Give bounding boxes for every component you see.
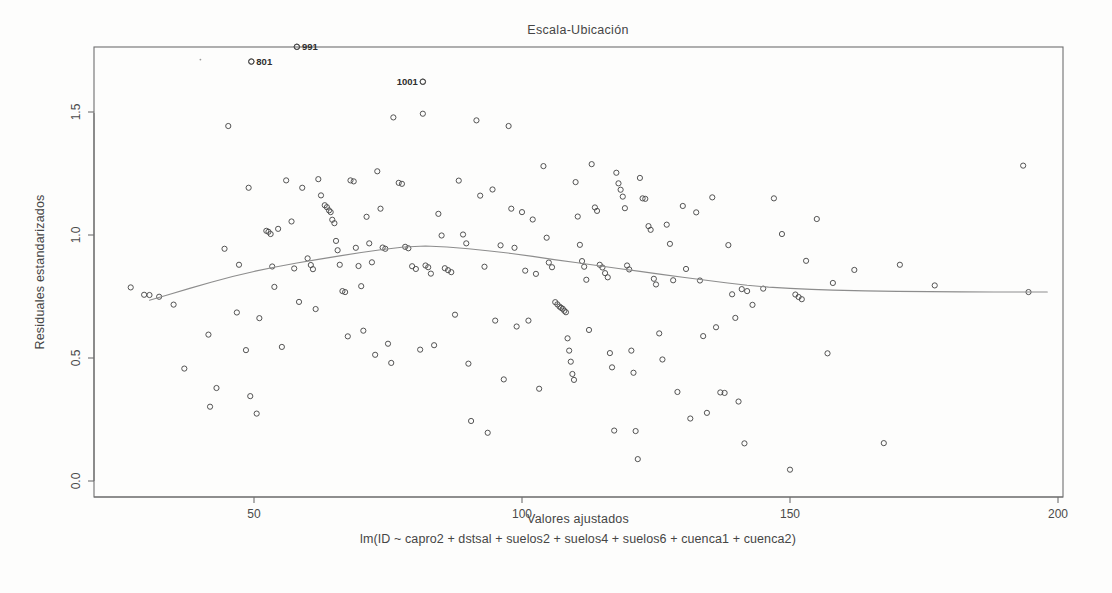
scatter-point [512, 245, 517, 250]
speck-group [200, 59, 202, 61]
scatter-point [147, 292, 152, 297]
scatter-point [537, 386, 542, 391]
scatter-point [493, 318, 498, 323]
loess-smooth-line [149, 246, 1047, 300]
scatter-point [616, 181, 621, 186]
scatter-point [369, 260, 374, 265]
scatter-point [605, 275, 610, 280]
scatter-point [635, 457, 640, 462]
plot-title: Escala-Ubicación [527, 23, 628, 37]
scatter-point [428, 271, 433, 276]
scatter-point [814, 216, 819, 221]
scatter-point [688, 416, 693, 421]
scatter-point [664, 222, 669, 227]
scatter-point [413, 266, 418, 271]
scatter-point [222, 246, 227, 251]
scatter-point [701, 334, 706, 339]
scatter-point [745, 288, 750, 293]
scatter-point [637, 175, 642, 180]
scatter-point [337, 262, 342, 267]
scatter-point [452, 312, 457, 317]
scatter-point [779, 231, 784, 236]
scatter-point [468, 418, 473, 423]
scatter-point [667, 241, 672, 246]
scatter-point [675, 389, 680, 394]
scatter-point [351, 179, 356, 184]
scatter-point [300, 185, 305, 190]
scatter-point [348, 178, 353, 183]
scatter-point [292, 266, 297, 271]
scatter-point [544, 235, 549, 240]
scatter-point [182, 366, 187, 371]
scatter-point [420, 111, 425, 116]
scatter-point [514, 324, 519, 329]
plot-frame [94, 47, 1063, 497]
scatter-point [704, 410, 709, 415]
scatter-point [683, 266, 688, 271]
scatter-point [361, 328, 366, 333]
scatter-point [490, 187, 495, 192]
scatter-point [697, 278, 702, 283]
scatter-point [509, 206, 514, 211]
scatter-point [432, 343, 437, 348]
scatter-point [830, 280, 835, 285]
scatter-point [825, 351, 830, 356]
scatter-point [226, 123, 231, 128]
scatter-point [396, 180, 401, 185]
scatter-point [573, 180, 578, 185]
scatter-point [439, 233, 444, 238]
scatter-point [389, 360, 394, 365]
scatter-point [318, 193, 323, 198]
scatter-point [622, 206, 627, 211]
scatter-point [367, 241, 372, 246]
scatter-point [523, 268, 528, 273]
scatter-point [730, 292, 735, 297]
scatter-point [246, 185, 251, 190]
scatter-point [589, 162, 594, 167]
scatter-point [128, 285, 133, 290]
scatter-point [565, 336, 570, 341]
scatter-point [313, 306, 318, 311]
scatter-point [248, 394, 253, 399]
scatter-point [359, 284, 364, 289]
scale-location-plot: Escala-Ubicación 0.00.51.01.5 5010015020… [0, 0, 1112, 593]
scatter-point [726, 242, 731, 247]
scatter-point [671, 278, 676, 283]
scatter-point [391, 115, 396, 120]
scatter-point [378, 206, 383, 211]
scatter-point [466, 361, 471, 366]
scatter-point [620, 194, 625, 199]
scatter-point [852, 267, 857, 272]
scatter-point [567, 348, 572, 353]
scatter-point [279, 344, 284, 349]
scatter-point [254, 411, 259, 416]
scatter-point [584, 277, 589, 282]
scatter-point [609, 365, 614, 370]
plot-subtitle-formula: lm(ID ~ capro2 + dstsal + suelos2 + suel… [360, 532, 796, 546]
scatter-point [680, 203, 685, 208]
scatter-point [142, 292, 147, 297]
scatter-point [633, 428, 638, 433]
scatter-point [485, 430, 490, 435]
scatter-point [276, 226, 281, 231]
scatter-point [787, 467, 792, 472]
scatter-point [296, 299, 301, 304]
scatter-point [739, 287, 744, 292]
speck-mark [200, 59, 202, 61]
scatter-point [305, 256, 310, 261]
scatter-point [530, 217, 535, 222]
scatter-points-group [128, 44, 1031, 472]
y-tick-label: 0.0 [69, 472, 83, 489]
scatter-point [498, 243, 503, 248]
scatter-point [612, 428, 617, 433]
scatter-point [736, 399, 741, 404]
scatter-point [436, 211, 441, 216]
y-axis-title: Residuales estandarizados [33, 194, 47, 349]
scatter-point [657, 331, 662, 336]
scatter-point [586, 327, 591, 332]
scatter-point [214, 385, 219, 390]
outlier-point-label: 991 [302, 41, 319, 52]
labeled-outliers-group: 9918011001 [249, 41, 426, 87]
scatter-point [710, 195, 715, 200]
scatter-point [284, 178, 289, 183]
